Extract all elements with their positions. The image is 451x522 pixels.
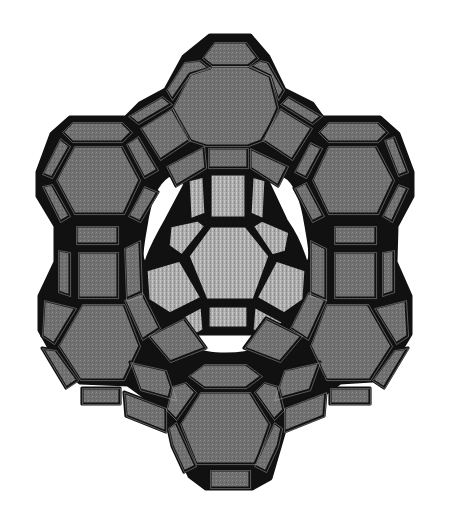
inner-top-left	[188, 176, 206, 220]
inner-top-square	[210, 174, 246, 218]
right-cage-top-square	[318, 122, 388, 142]
right-prism-top	[334, 226, 376, 244]
right-prism-right	[382, 250, 394, 296]
left-prism-left	[58, 250, 70, 296]
lower-right-cage-bottom	[330, 388, 370, 404]
top-bottom-square	[208, 148, 248, 168]
bottom-cage-bottom-square	[210, 470, 250, 488]
inner-bottom-square	[208, 306, 248, 328]
left-prism-right	[124, 240, 142, 300]
lower-left-cage-bottom	[82, 388, 120, 404]
top-cage-top-square	[202, 42, 258, 66]
right-prism-left	[310, 240, 326, 300]
zeolite-framework-drawing	[0, 0, 451, 522]
left-cage-top-square	[62, 122, 132, 142]
zeolite-figure	[0, 0, 451, 522]
bottom-cage-hexagon	[180, 392, 270, 464]
left-prism-top	[76, 226, 118, 244]
right-prism-front	[334, 252, 376, 298]
inner-top-right	[250, 176, 266, 220]
left-prism-front	[78, 252, 118, 298]
